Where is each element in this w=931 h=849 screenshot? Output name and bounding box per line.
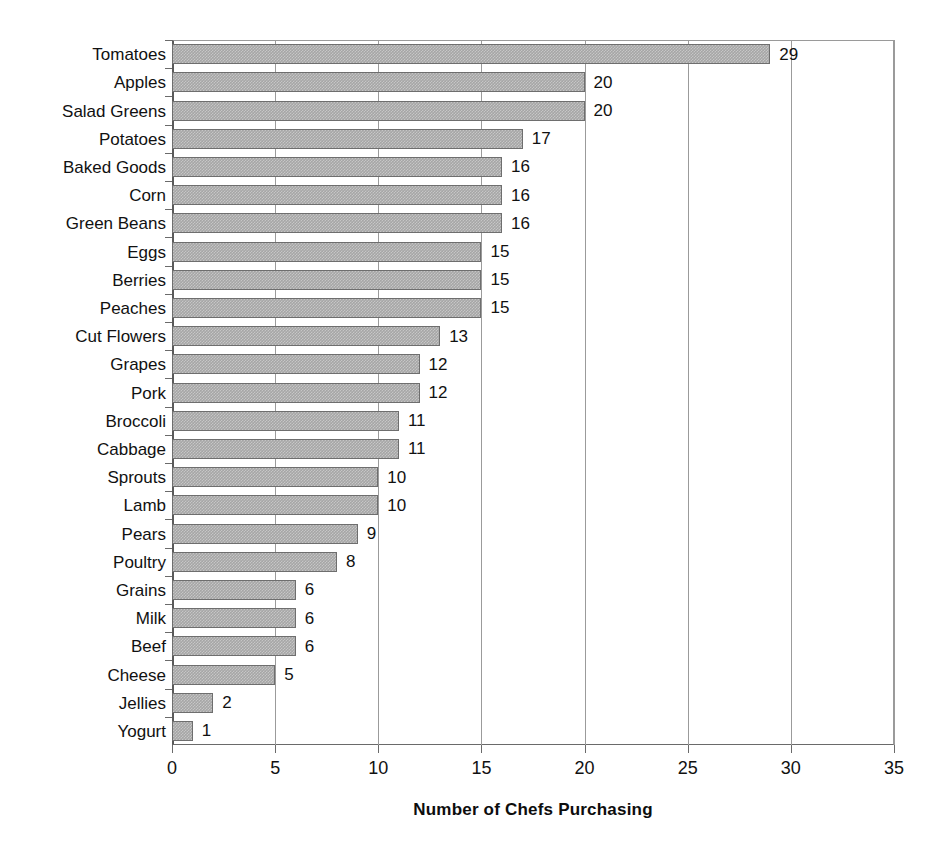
x-axis-title: Number of Chefs Purchasing xyxy=(172,800,894,820)
bar-row: 6 xyxy=(172,607,931,629)
bar-corn[interactable] xyxy=(172,185,502,205)
category-label-broccoli: Broccoli xyxy=(0,413,166,430)
y-axis-tick xyxy=(165,294,172,295)
y-axis-tick xyxy=(165,548,172,549)
bar-poultry[interactable] xyxy=(172,552,337,572)
bar-sprouts[interactable] xyxy=(172,467,378,487)
x-axis-tick-0 xyxy=(172,745,173,753)
bar-grains[interactable] xyxy=(172,580,296,600)
y-axis-tick xyxy=(165,407,172,408)
bar-salad-greens[interactable] xyxy=(172,101,585,121)
y-axis-tick xyxy=(165,660,172,661)
x-axis-tick-label-10: 10 xyxy=(348,758,408,778)
y-axis-tick xyxy=(165,209,172,210)
bar-broccoli[interactable] xyxy=(172,411,399,431)
bar-row: 10 xyxy=(172,494,931,516)
y-axis-tick xyxy=(165,266,172,267)
bar-pears[interactable] xyxy=(172,524,358,544)
category-label-tomatoes: Tomatoes xyxy=(0,46,166,63)
bar-value-label: 13 xyxy=(449,328,468,345)
x-axis-tick-label-25: 25 xyxy=(658,758,718,778)
x-axis-tick-30 xyxy=(791,745,792,753)
bar-row: 5 xyxy=(172,664,931,686)
bar-row: 6 xyxy=(172,635,931,657)
y-axis-tick xyxy=(165,378,172,379)
x-axis-tick-label-30: 30 xyxy=(761,758,821,778)
bar-row: 8 xyxy=(172,551,931,573)
bar-value-label: 11 xyxy=(408,412,426,429)
bar-row: 16 xyxy=(172,156,931,178)
y-axis-tick xyxy=(165,125,172,126)
y-axis-tick xyxy=(165,435,172,436)
bar-row: 1 xyxy=(172,720,931,742)
bar-value-label: 12 xyxy=(429,384,448,401)
bar-value-label: 6 xyxy=(305,638,314,655)
bar-potatoes[interactable] xyxy=(172,129,523,149)
bar-value-label: 20 xyxy=(594,74,613,91)
category-label-pears: Pears xyxy=(0,526,166,543)
bar-berries[interactable] xyxy=(172,270,481,290)
bar-row: 16 xyxy=(172,212,931,234)
category-label-jellies: Jellies xyxy=(0,695,166,712)
category-label-lamb: Lamb xyxy=(0,497,166,514)
category-label-berries: Berries xyxy=(0,272,166,289)
category-label-yogurt: Yogurt xyxy=(0,723,166,740)
bar-row: 6 xyxy=(172,579,931,601)
y-axis-tick xyxy=(165,350,172,351)
x-axis-tick-35 xyxy=(894,745,895,753)
bar-row: 20 xyxy=(172,71,931,93)
bar-value-label: 1 xyxy=(202,722,211,739)
bar-row: 16 xyxy=(172,184,931,206)
bar-cabbage[interactable] xyxy=(172,439,399,459)
bar-value-label: 8 xyxy=(346,553,355,570)
y-axis-tick xyxy=(165,68,172,69)
x-axis-tick-10 xyxy=(378,745,379,753)
bar-peaches[interactable] xyxy=(172,298,481,318)
x-axis-tick-label-15: 15 xyxy=(451,758,511,778)
bar-value-label: 11 xyxy=(408,440,426,457)
x-axis-tick-label-20: 20 xyxy=(555,758,615,778)
bar-cheese[interactable] xyxy=(172,665,275,685)
category-label-cheese: Cheese xyxy=(0,667,166,684)
bar-value-label: 9 xyxy=(367,525,376,542)
bar-value-label: 16 xyxy=(511,158,530,175)
y-axis-tick xyxy=(165,632,172,633)
bar-eggs[interactable] xyxy=(172,242,481,262)
bar-tomatoes[interactable] xyxy=(172,44,770,64)
bar-pork[interactable] xyxy=(172,383,420,403)
bar-baked-goods[interactable] xyxy=(172,157,502,177)
bar-jellies[interactable] xyxy=(172,693,213,713)
bar-row: 12 xyxy=(172,382,931,404)
bar-row: 29 xyxy=(172,43,931,65)
bar-row: 10 xyxy=(172,466,931,488)
y-axis-tick xyxy=(165,153,172,154)
bar-value-label: 15 xyxy=(490,299,509,316)
bar-cut-flowers[interactable] xyxy=(172,326,440,346)
y-axis-tick xyxy=(165,689,172,690)
bar-row: 9 xyxy=(172,523,931,545)
bar-lamb[interactable] xyxy=(172,495,378,515)
bar-beef[interactable] xyxy=(172,636,296,656)
bar-yogurt[interactable] xyxy=(172,721,193,741)
y-axis-tick xyxy=(165,96,172,97)
x-axis-tick-label-35: 35 xyxy=(864,758,924,778)
bar-milk[interactable] xyxy=(172,608,296,628)
bar-row: 15 xyxy=(172,269,931,291)
bar-value-label: 16 xyxy=(511,187,530,204)
y-axis-tick xyxy=(165,717,172,718)
y-axis-tick xyxy=(165,463,172,464)
bar-grapes[interactable] xyxy=(172,354,420,374)
bar-apples[interactable] xyxy=(172,72,585,92)
category-label-salad-greens: Salad Greens xyxy=(0,103,166,120)
bar-green-beans[interactable] xyxy=(172,213,502,233)
x-axis-tick-15 xyxy=(481,745,482,753)
category-label-grapes: Grapes xyxy=(0,356,166,373)
category-label-grains: Grains xyxy=(0,582,166,599)
y-axis-tick xyxy=(165,40,172,41)
bar-row: 20 xyxy=(172,100,931,122)
bar-value-label: 6 xyxy=(305,610,314,627)
category-label-green-beans: Green Beans xyxy=(0,215,166,232)
category-label-beef: Beef xyxy=(0,638,166,655)
x-axis-tick-5 xyxy=(275,745,276,753)
bar-row: 17 xyxy=(172,128,931,150)
